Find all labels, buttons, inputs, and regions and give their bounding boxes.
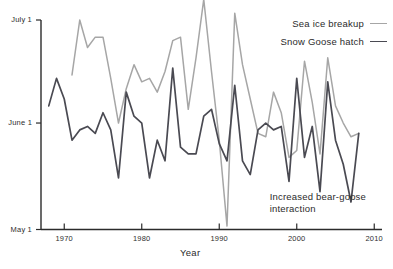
y-tick-label-june-1: June 1 [0,118,32,127]
x-axis-ticks [64,224,374,230]
annotation-line-1: Increased bear-goose [270,191,366,203]
x-tick-label-1980: 1980 [122,234,162,243]
chart-figure: July 1June 1May 1 19701980199020002010 Y… [0,0,393,269]
legend-swatch-snow-goose-hatch [370,41,387,42]
series-line-snow-goose-hatch [49,68,359,202]
y-tick-label-july-1: July 1 [0,15,32,24]
chart-annotation-bear-goose: Increased bear-goose interaction [270,191,366,215]
annotation-line-2: interaction [270,203,366,215]
x-tick-label-2000: 2000 [277,234,317,243]
y-tick-label-may-1: May 1 [0,225,32,234]
legend-item-sea-ice-breakup: Sea ice breakup [292,18,387,29]
legend-item-snow-goose-hatch: Snow Goose hatch [281,36,387,47]
x-tick-label-1990: 1990 [199,234,239,243]
x-tick-label-1970: 1970 [44,234,84,243]
x-tick-label-2010: 2010 [354,234,393,243]
legend-label-snow-goose-hatch: Snow Goose hatch [281,36,364,47]
legend-label-sea-ice-breakup: Sea ice breakup [292,18,364,29]
x-axis-title: Year [180,247,200,258]
y-axis-ticks [36,20,41,230]
legend-swatch-sea-ice-breakup [370,23,387,24]
